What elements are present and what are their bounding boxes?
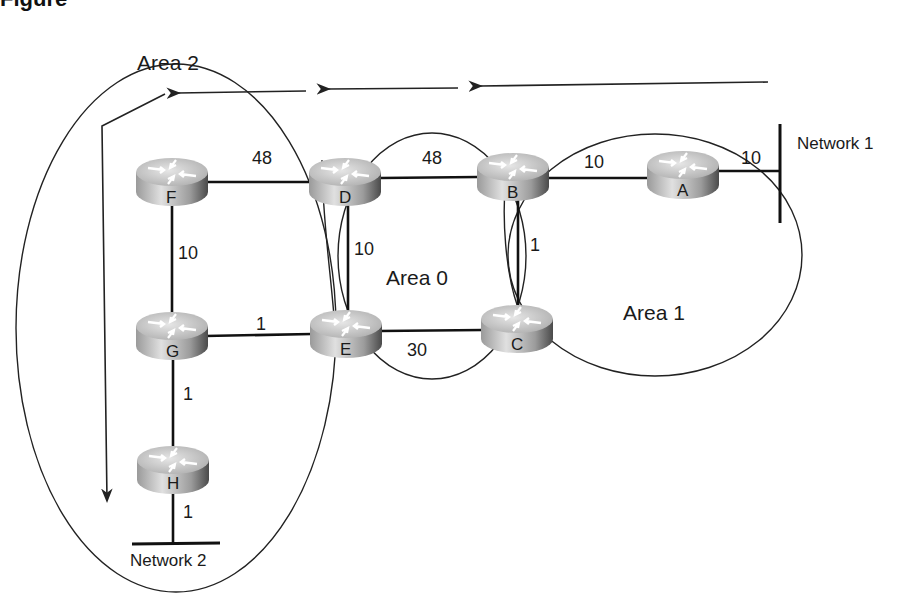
link-e-c — [380, 330, 483, 331]
cost-h-net2: 1 — [183, 502, 193, 522]
area-2-label: Area 2 — [137, 51, 199, 74]
flood-arrow-4 — [102, 94, 165, 500]
cost-b-a: 10 — [584, 152, 604, 172]
cost-g-e: 1 — [256, 314, 266, 334]
cost-e-c: 30 — [407, 340, 427, 360]
network-2-segment — [132, 543, 220, 544]
cost-a-net1: 10 — [741, 148, 761, 168]
router-label-g: G — [166, 342, 179, 361]
cost-f-d: 48 — [252, 148, 272, 168]
flood-arrow-1 — [480, 82, 768, 86]
router-label-a: A — [677, 181, 689, 200]
area-0-label: Area 0 — [386, 266, 448, 289]
flood-arrow-3 — [178, 91, 306, 93]
router-label-e: E — [340, 340, 351, 359]
network-2-label: Network 2 — [130, 551, 207, 570]
cost-g-h: 1 — [183, 384, 193, 404]
link-d-b — [380, 177, 478, 178]
router-label-f: F — [166, 188, 176, 207]
flood-arrow-2 — [328, 88, 458, 89]
router-label-c: C — [511, 335, 523, 354]
cost-f-g: 10 — [178, 243, 198, 263]
link-g-e — [205, 334, 312, 336]
router-label-b: B — [507, 183, 518, 202]
cost-d-e: 10 — [354, 239, 374, 259]
cost-d-b: 48 — [422, 148, 442, 168]
router-label-d: D — [339, 188, 351, 207]
cost-b-c: 1 — [530, 235, 540, 255]
area-1-label: Area 1 — [623, 301, 685, 324]
network-1-label: Network 1 — [797, 134, 874, 153]
ospf-area-diagram: F D B A G E C H 48 48 10 10 10 10 1 1 30… — [0, 0, 905, 604]
router-label-h: H — [167, 474, 179, 493]
